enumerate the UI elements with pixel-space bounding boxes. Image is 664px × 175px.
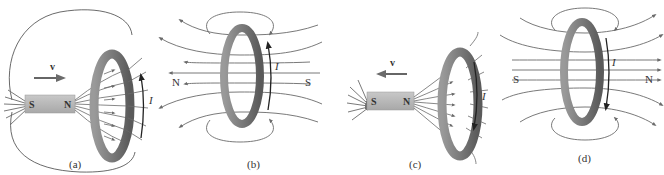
conducting-loop (442, 52, 478, 156)
current-label: I (481, 90, 487, 102)
panel-c: S N v⃗ I (c) (347, 32, 488, 171)
pole-label-n: N (172, 76, 180, 88)
panel-b: I N S (b) (160, 12, 322, 171)
induction-figure: S N v⃗ I (a) (0, 0, 664, 175)
panel-d: I S N (d) (500, 8, 662, 165)
pole-label-s: S (305, 76, 311, 88)
panel-label-d: (d) (578, 152, 591, 165)
current-label: I (611, 56, 617, 68)
velocity-label: v⃗ (50, 61, 63, 72)
conducting-loop (224, 28, 260, 124)
current-label: I (148, 94, 154, 106)
pole-label-s: S (29, 99, 35, 110)
pole-label-s: S (513, 73, 519, 85)
current-arrow-down (606, 38, 609, 108)
velocity-label: v⃗ (390, 57, 403, 68)
current-label: I (274, 60, 280, 72)
panel-label-b: (b) (247, 158, 260, 171)
panel-a: S N v⃗ I (a) (4, 10, 154, 172)
panel-label-c: (c) (409, 158, 422, 171)
panel-label-a: (a) (69, 158, 82, 171)
pole-label-n: N (403, 96, 411, 107)
pole-label-s: S (371, 96, 377, 107)
pole-label-n: N (64, 99, 72, 110)
pole-label-n: N (645, 73, 653, 85)
